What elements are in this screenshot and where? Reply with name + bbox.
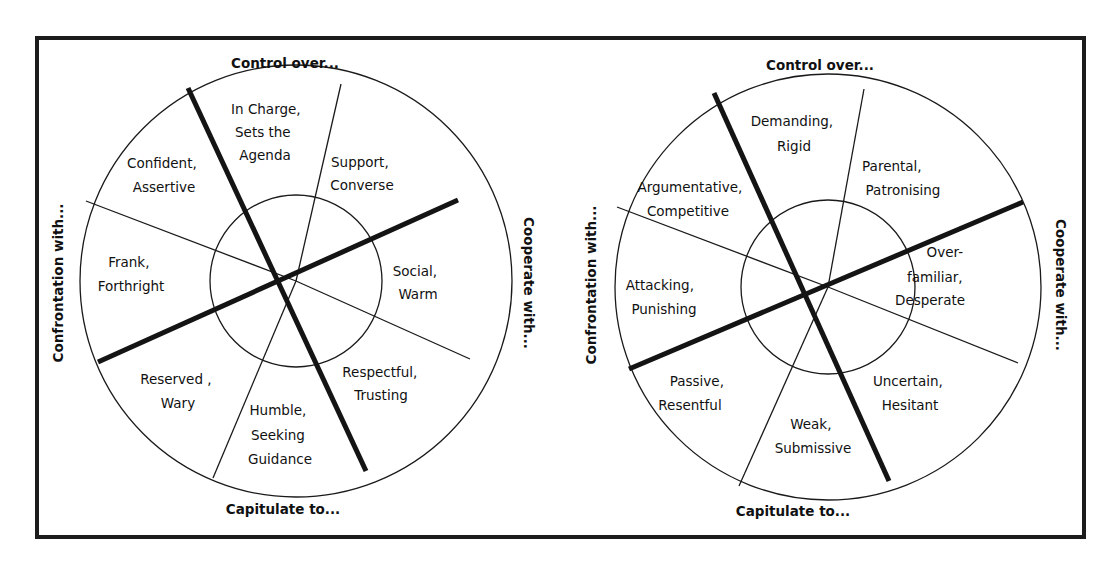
- right-axis-bottom: Capitulate to...: [736, 503, 851, 519]
- left-axis-right: Cooperate with...: [521, 217, 537, 349]
- right-axis-top: Control over...: [766, 57, 874, 73]
- left-axis-top: Control over...: [231, 55, 339, 71]
- diagram: Control over... Capitulate to... Confron…: [0, 0, 1118, 565]
- left-segment-humble: Humble, Seeking Guidance: [248, 402, 312, 467]
- right-axis-left: Confrontation with...: [583, 206, 599, 365]
- right-axis-right: Cooperate with...: [1053, 219, 1069, 351]
- left-axis-bottom: Capitulate to...: [226, 501, 341, 517]
- left-axis-left: Confrontation with...: [50, 204, 66, 363]
